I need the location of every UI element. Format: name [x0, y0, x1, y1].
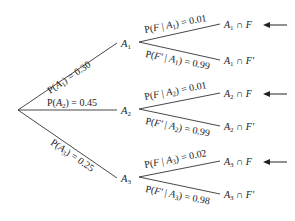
label-p-a1: P(A1) = 0.30 [45, 59, 94, 98]
node-a1: A1 [120, 38, 131, 51]
left-arrow-icon [263, 22, 287, 28]
label-p-fprime-given-a1: P(F′ | A1) = 0.99 [144, 48, 211, 73]
left-arrow-icon [263, 91, 287, 97]
label-p-f-given-a1: P(F | A1) = 0.01 [143, 12, 207, 37]
label-p-a2: P(A2) = 0.45 [47, 97, 97, 110]
label-p-a3: P(A3) = 0.25 [48, 137, 97, 176]
label-p-f-given-a3: P(F | A3) = 0.02 [143, 147, 207, 172]
label-p-fprime-given-a2: P(F′ | A2) = 0.99 [144, 115, 211, 140]
outcome-a2-and-fprime: A2 ∩ F′ [223, 121, 255, 134]
outcome-a1-and-fprime: A1 ∩ F′ [223, 55, 255, 68]
node-a2: A2 [120, 105, 131, 118]
left-arrow-icon [263, 159, 287, 165]
node-a3: A3 [120, 173, 131, 186]
outcome-a3-and-fprime: A3 ∩ F′ [223, 189, 255, 202]
label-p-fprime-given-a3: P(F′ | A3) = 0.98 [144, 183, 211, 208]
outcome-a3-and-f: A3 ∩ F [223, 156, 253, 169]
outcome-a2-and-f: A2 ∩ F [223, 88, 253, 101]
probability-tree-diagram: P(A1) = 0.30 P(A2) = 0.45 P(A3) = 0.25 A… [0, 0, 295, 221]
label-p-f-given-a2: P(F | A2) = 0.01 [143, 79, 207, 104]
outcome-a1-and-f: A1 ∩ F [223, 19, 253, 32]
